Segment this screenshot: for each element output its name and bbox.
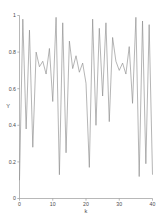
y-tick-label: 0.8 — [9, 49, 16, 55]
y-tick-label: 0.4 — [9, 122, 16, 128]
y-tick-label: 0.6 — [9, 86, 16, 92]
y-tick-label: 0 — [13, 195, 16, 201]
x-axis-label: k — [85, 208, 88, 214]
y-axis-label: Y — [6, 103, 10, 109]
x-tick-label: 30 — [116, 201, 122, 207]
data-series-line — [20, 17, 153, 180]
y-tick-label: 0.2 — [9, 159, 16, 165]
x-tick-label: 40 — [150, 201, 156, 207]
line-chart: 010203040 00.20.40.60.81 k Y — [0, 0, 163, 221]
y-tick-label: 1 — [13, 12, 16, 18]
x-axis-tick-labels: 010203040 — [18, 201, 155, 207]
x-tick-label: 20 — [83, 201, 89, 207]
x-tick-label: 0 — [18, 201, 21, 207]
x-tick-label: 10 — [50, 201, 56, 207]
chart-figure: 010203040 00.20.40.60.81 k Y — [0, 0, 163, 221]
